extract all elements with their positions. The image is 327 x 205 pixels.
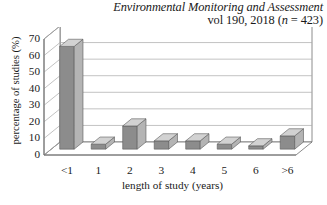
journal-name: Environmental Monitoring and Assessment [0,0,323,14]
y-tick-label: 60 [18,50,40,61]
chart-3d-walls [44,27,312,155]
sample-size-value: = 423) [288,13,323,27]
x-axis-title: length of study (years) [40,179,305,191]
y-tick-label: 20 [18,116,40,127]
volume-prefix: vol 190, 2018 ( [207,13,281,27]
x-tick-label: 1 [83,163,113,177]
bar-chart: percentage of studies (%) 01020304050607… [0,27,327,205]
y-tick-label: 50 [18,66,40,77]
y-tick-label: 30 [18,99,40,110]
x-tick-label: 3 [146,163,176,177]
x-tick-label: >6 [272,163,302,177]
x-tick-label: 6 [241,163,271,177]
y-axis-tick-labels: 010203040506070 [12,27,40,162]
y-tick-label: 70 [18,33,40,44]
x-tick-label: 5 [209,163,239,177]
figure-title: Environmental Monitoring and Assessment … [0,0,327,26]
x-axis-tick-labels: <1123456>6 [40,163,323,179]
volume-issue-line: vol 190, 2018 (n = 423) [0,14,323,27]
plot-area [40,27,327,167]
y-tick-label: 40 [18,83,40,94]
y-tick-label: 10 [18,132,40,143]
x-tick-label: 4 [178,163,208,177]
y-tick-label: 0 [18,149,40,160]
x-tick-label: 2 [115,163,145,177]
x-tick-label: <1 [52,163,82,177]
